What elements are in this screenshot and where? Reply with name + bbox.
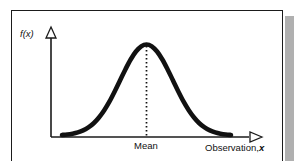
y-axis-label: f(x) [20, 29, 34, 39]
x-axis-label: Observation,x [205, 143, 264, 153]
x-axis-label-variable: x [259, 142, 264, 153]
x-axis-arrowhead-icon [250, 132, 262, 142]
normal-distribution-plot [0, 0, 305, 161]
y-axis-arrowhead-icon [46, 27, 56, 38]
x-axis-label-text: Observation, [205, 142, 259, 153]
mean-label: Mean [134, 141, 158, 151]
